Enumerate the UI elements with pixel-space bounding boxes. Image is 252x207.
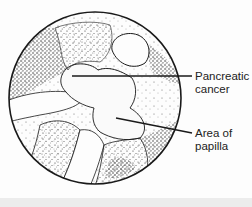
footer-strip <box>0 198 252 207</box>
endoscopic-view-drawing <box>0 0 252 198</box>
label-line: cancer <box>195 83 249 96</box>
endoscopic-illustration: Pancreatic cancer Area of papilla <box>0 0 252 198</box>
label-area-of-papilla: Area of papilla <box>195 127 232 153</box>
label-line: Pancreatic <box>195 70 249 83</box>
label-pancreatic-cancer: Pancreatic cancer <box>195 70 249 96</box>
scope-field <box>0 0 252 198</box>
label-line: papilla <box>195 140 232 153</box>
label-line: Area of <box>195 127 232 140</box>
